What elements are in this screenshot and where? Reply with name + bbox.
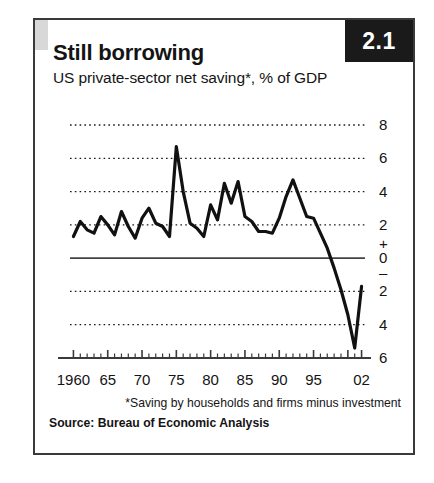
chart-footnote: *Saving by households and firms minus in…	[125, 396, 401, 410]
line-chart-svg	[35, 20, 415, 455]
x-axis-tick-label: 95	[291, 372, 337, 387]
y-axis-tick-label: 4	[379, 184, 387, 199]
y-axis-tick-label: 4	[379, 317, 387, 332]
y-axis-tick-label: 2	[379, 283, 387, 298]
y-axis-tick-label: 6	[379, 350, 387, 365]
plot-area: 86420246+–19606570758085909502	[35, 20, 415, 455]
chart-figure: 2.1 Still borrowing US private-sector ne…	[33, 18, 415, 455]
data-line-us-private-sector-net-saving	[73, 147, 361, 348]
y-axis-tick-label: 8	[379, 117, 387, 132]
y-axis-negative-sign: –	[379, 265, 387, 280]
chart-source: Source: Bureau of Economic Analysis	[49, 416, 269, 430]
y-axis-positive-sign: +	[379, 236, 388, 251]
y-axis-tick-label: 6	[379, 150, 387, 165]
x-axis-tick-label: 02	[339, 372, 385, 387]
y-axis-tick-label: 2	[379, 217, 387, 232]
y-axis-tick-label: 0	[379, 250, 387, 265]
